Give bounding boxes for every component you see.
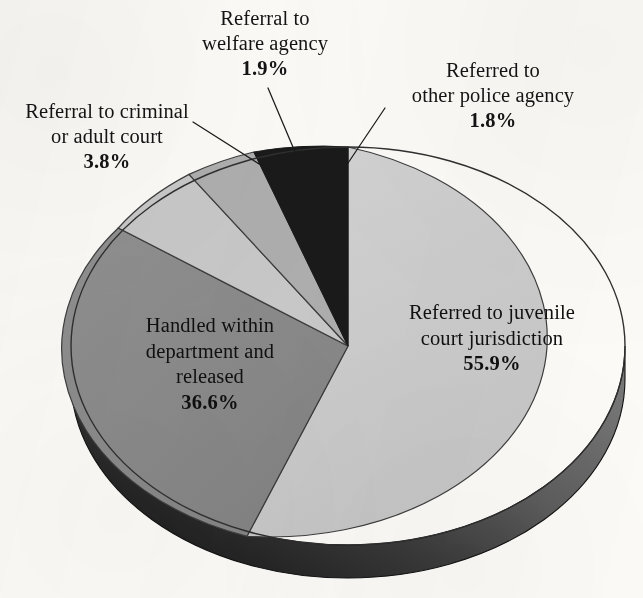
welfare-label-line1: Referral to	[220, 7, 309, 29]
juvenile-label-line2: court jurisdiction	[421, 327, 563, 349]
slice-label-criminal-adult-court: Referral to criminal or adult court 3.8%	[4, 99, 210, 174]
handled-label-line2: department and	[146, 340, 274, 362]
criminal-label-percent: 3.8%	[4, 149, 210, 174]
handled-label-line1: Handled within	[146, 314, 274, 336]
criminal-label-line2: or adult court	[51, 125, 163, 147]
juvenile-label-line1: Referred to juvenile	[409, 301, 575, 323]
handled-label-line3: released	[176, 365, 244, 387]
welfare-label-line2: welfare agency	[202, 32, 328, 54]
slice-label-juvenile-court: Referred to juvenile court jurisdiction …	[388, 300, 596, 377]
slice-label-other-police-agency: Referred to other police agency 1.8%	[381, 58, 605, 133]
welfare-label-percent: 1.9%	[171, 56, 359, 81]
criminal-label-line1: Referral to criminal	[25, 100, 189, 122]
police-label-line1: Referred to	[446, 59, 540, 81]
slice-label-welfare-agency: Referral to welfare agency 1.9%	[171, 6, 359, 81]
pie-chart-figure: Referral to welfare agency 1.9% Referred…	[0, 0, 643, 598]
slice-label-handled-released: Handled within department and released 3…	[112, 313, 308, 415]
juvenile-label-percent: 55.9%	[388, 351, 596, 377]
police-label-percent: 1.8%	[381, 108, 605, 133]
handled-label-percent: 36.6%	[112, 390, 308, 416]
police-label-line2: other police agency	[412, 84, 574, 106]
